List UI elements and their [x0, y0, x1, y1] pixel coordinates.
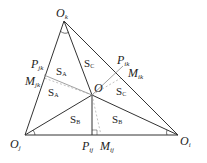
label-oi: Oi [180, 134, 191, 149]
label-area-sa-upper: SA [56, 65, 67, 77]
label-area-sa-lower: SA [48, 86, 59, 98]
right-angle-marker-pij [92, 130, 97, 135]
label-area-sc-lower: SC [116, 85, 126, 97]
label-mjk: Mjk [24, 74, 41, 89]
geometry-diagram: Ok Oj Oi O Pjk Pik Pij Mjk Mik Mij SA SA… [0, 0, 207, 163]
label-mij: Mij [99, 139, 114, 154]
label-area-sc-upper: SC [84, 57, 94, 69]
triangle-outline [25, 21, 178, 135]
segment-o-oj [25, 95, 92, 135]
segment-o-oi [92, 95, 178, 135]
label-o: O [94, 81, 103, 95]
label-pij: Pij [81, 139, 93, 154]
label-area-sb-right: SB [112, 113, 122, 125]
dashed-o-mij [92, 95, 101, 135]
label-mik: Mik [127, 66, 144, 81]
label-area-sb-left: SB [70, 113, 80, 125]
label-oj: Oj [10, 137, 21, 152]
angle-arc-oi [167, 130, 168, 135]
angle-arc-oj [33, 130, 35, 135]
label-pjk: Pjk [30, 57, 44, 72]
label-ok: Ok [56, 6, 69, 21]
